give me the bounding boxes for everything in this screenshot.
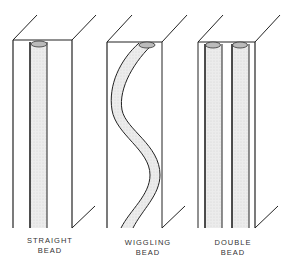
wiggling-plate-back-left bbox=[107, 15, 132, 42]
wiggling-plate-back-right bbox=[162, 15, 187, 42]
straight-bead-fill bbox=[30, 42, 47, 228]
double-bead-label-line1: DOUBLE bbox=[193, 238, 273, 248]
wiggling-bead-cross-section bbox=[139, 42, 155, 48]
bead-diagram bbox=[0, 0, 288, 268]
double-plate-back-left bbox=[198, 15, 223, 42]
straight-bead-panel bbox=[13, 15, 96, 228]
straight-plate-bottom-right bbox=[72, 206, 95, 228]
double-bead-1-fill bbox=[205, 44, 222, 228]
double-bead-2-cross-section bbox=[233, 42, 248, 48]
wiggling-bead-label-line1: WIGGLING bbox=[108, 238, 188, 248]
wiggling-plate-bottom-right bbox=[162, 206, 185, 228]
straight-bead-label-line1: STRAIGHT bbox=[10, 236, 90, 246]
double-bead-panel bbox=[198, 15, 280, 228]
double-bead-label: DOUBLE BEAD bbox=[193, 238, 273, 258]
double-bead-1-cross-section bbox=[206, 42, 221, 48]
double-bead-label-line2: BEAD bbox=[193, 248, 273, 258]
double-plate-bottom-right bbox=[255, 206, 278, 228]
straight-bead-label-line2: BEAD bbox=[10, 246, 90, 256]
straight-bead-label: STRAIGHT BEAD bbox=[10, 236, 90, 256]
wiggling-bead-label-line2: BEAD bbox=[108, 248, 188, 258]
straight-bead-cross-section bbox=[31, 41, 47, 47]
double-plate-back-right bbox=[255, 15, 280, 42]
wiggling-bead-label: WIGGLING BEAD bbox=[108, 238, 188, 258]
double-bead-2-fill bbox=[232, 44, 249, 228]
straight-plate-back-left bbox=[13, 15, 37, 40]
wiggling-bead-panel bbox=[107, 15, 187, 228]
straight-plate-back-right bbox=[72, 15, 96, 40]
